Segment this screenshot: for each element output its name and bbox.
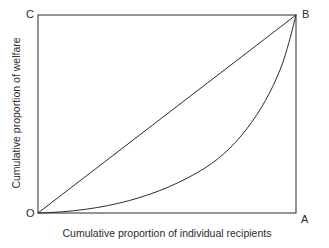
corner-label-a: A <box>301 214 308 225</box>
corner-label-b: B <box>302 9 309 20</box>
corner-label-c: C <box>26 9 34 20</box>
lorenz-curve-figure: C B O A Cumulative proportion of individ… <box>0 0 329 248</box>
plot-canvas <box>0 0 329 248</box>
x-axis-title: Cumulative proportion of individual reci… <box>38 227 296 239</box>
corner-label-o: O <box>26 208 35 219</box>
y-axis-title: Cumulative proportion of welfare <box>10 14 22 212</box>
